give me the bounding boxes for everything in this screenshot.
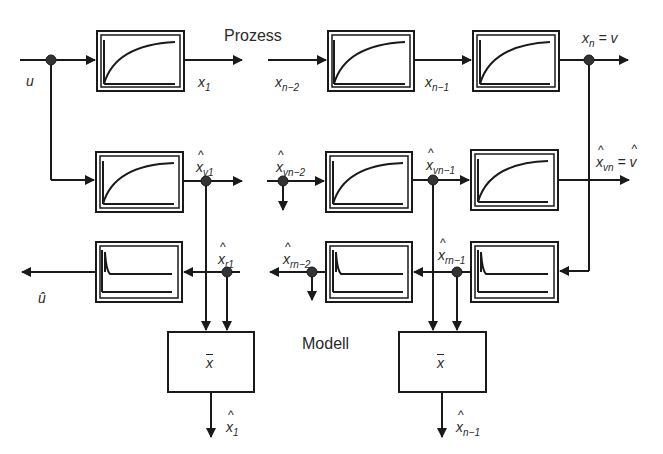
block-diagram-canvas <box>0 0 663 454</box>
eq: = v <box>598 30 617 46</box>
sub: 1 <box>205 82 211 93</box>
impulse-response-icon <box>102 250 172 292</box>
signal-xvn1: ^xvn−1 <box>426 158 455 172</box>
branch-node <box>46 55 56 65</box>
model-reverse-block-1-inner <box>100 246 178 298</box>
sym: x <box>425 74 432 90</box>
process-block-3 <box>473 31 559 91</box>
hat: ^ <box>598 144 604 156</box>
sub: rn−1 <box>445 255 465 266</box>
process-label: Prozess <box>224 28 282 44</box>
sub: vn−2 <box>283 167 305 178</box>
hat: ^ <box>220 241 226 253</box>
sub: vn <box>603 162 614 173</box>
model-label: Modell <box>302 336 349 352</box>
branch-node <box>584 55 594 65</box>
signal-xr1: ^xr1 <box>218 252 234 266</box>
hat: ^ <box>428 147 434 159</box>
step-response-icon <box>333 161 403 204</box>
signal-xrn2: ^xrn−2 <box>283 252 310 266</box>
signal-x1: x1 <box>198 75 211 89</box>
sub: n−1 <box>432 82 449 93</box>
signal-u-estimate: û <box>38 291 46 305</box>
step-response-icon <box>334 40 405 84</box>
sub: 1 <box>233 427 239 438</box>
signal-xv1: ^xv1 <box>196 160 214 174</box>
eq: = <box>617 154 625 170</box>
hat: ^ <box>278 149 284 161</box>
signal-xrn1: ^xrn−1 <box>438 248 465 262</box>
sym: x <box>582 30 589 46</box>
model-reverse-block-3-inner <box>475 246 554 298</box>
sub: vn−1 <box>433 165 455 176</box>
signal-xn1-estimate: ^xn−1 <box>456 420 480 434</box>
hat: ^ <box>198 149 204 161</box>
model-reverse-block-2-inner <box>330 246 408 298</box>
signal-xn2: xn−2 <box>275 75 299 89</box>
hat: ^ <box>440 237 446 249</box>
signal-u: u <box>26 74 34 88</box>
signal-xn1: xn−1 <box>425 75 449 89</box>
average-label-1: x <box>206 356 213 370</box>
signal-xn: xn = v <box>582 31 618 45</box>
sub: n <box>589 38 595 49</box>
sub: r1 <box>225 259 234 270</box>
sub: n−2 <box>282 82 299 93</box>
sub: v1 <box>203 167 214 178</box>
step-response-icon <box>480 40 550 84</box>
hat: ^ <box>458 409 464 421</box>
impulse-response-icon <box>478 250 548 292</box>
average-label-2: x <box>437 356 444 370</box>
sym: x <box>198 74 205 90</box>
hat: ^ <box>632 143 638 155</box>
v-hat: ^v <box>630 154 637 170</box>
branch-node <box>428 175 438 185</box>
step-response-icon <box>103 161 174 204</box>
hat: ^ <box>285 241 291 253</box>
step-response-icon <box>478 159 548 202</box>
signal-xvn2: ^xvn−2 <box>276 160 305 174</box>
sym: v <box>630 154 637 170</box>
signal-xvn: ^xvn = ^v <box>596 155 637 169</box>
process-block-1 <box>97 31 184 91</box>
branch-node <box>452 267 462 277</box>
process-block-2 <box>328 31 414 91</box>
step-response-icon <box>104 40 175 84</box>
impulse-response-icon <box>333 250 403 292</box>
signal-x1-estimate: ^x1 <box>226 420 239 434</box>
hat: ^ <box>228 409 234 421</box>
sub: n−1 <box>463 427 480 438</box>
sym: x <box>275 74 282 90</box>
sub: rn−2 <box>290 259 310 270</box>
